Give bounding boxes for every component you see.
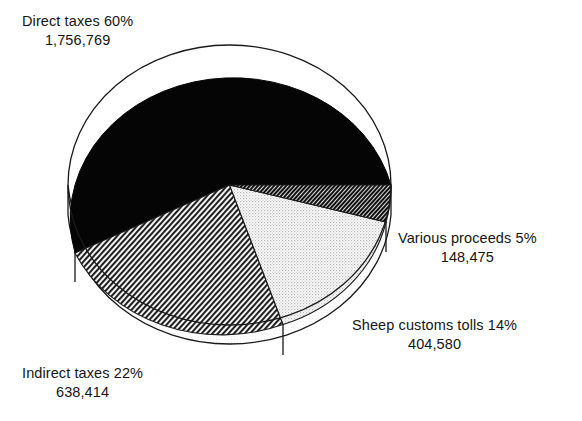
slice-label-direct-taxes: Direct taxes 60% 1,756,769: [22, 12, 133, 49]
slice-label-sheep-customs-tolls-name: Sheep customs tolls 14%: [352, 316, 517, 335]
pie-top-face: [68, 45, 391, 335]
slice-label-direct-taxes-value: 1,756,769: [22, 31, 133, 50]
slice-label-indirect-taxes-value: 638,414: [22, 383, 143, 402]
slice-label-various-proceeds-name: Various proceeds 5%: [398, 229, 537, 248]
pie-chart-figure: Direct taxes 60% 1,756,769 Various proce…: [0, 0, 582, 421]
slice-label-indirect-taxes: Indirect taxes 22% 638,414: [22, 364, 143, 401]
pie-chart-graphic: [0, 0, 582, 421]
slice-label-sheep-customs-tolls: Sheep customs tolls 14% 404,580: [352, 316, 517, 353]
slice-label-various-proceeds: Various proceeds 5% 148,475: [398, 229, 537, 266]
slice-label-direct-taxes-name: Direct taxes 60%: [22, 12, 133, 31]
slice-label-indirect-taxes-name: Indirect taxes 22%: [22, 364, 143, 383]
slice-label-various-proceeds-value: 148,475: [398, 248, 537, 267]
slice-label-sheep-customs-tolls-value: 404,580: [352, 335, 517, 354]
